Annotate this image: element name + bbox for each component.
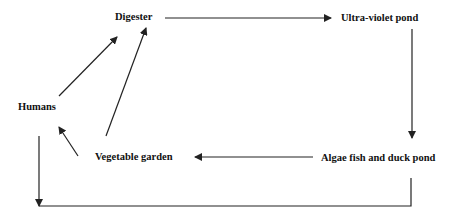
diagram-arrows xyxy=(0,0,457,218)
arrow-humans-to-digester xyxy=(59,37,117,96)
node-ultra-violet-pond: Ultra-violet pond xyxy=(341,12,418,24)
node-algae-fish-duck-pond: Algae fish and duck pond xyxy=(321,152,435,164)
arrow-vegetable-garden-to-digester xyxy=(106,28,146,136)
arrow-vegetable-garden-to-humans xyxy=(59,127,78,156)
bottom-loop-line xyxy=(39,178,411,206)
node-digester: Digester xyxy=(115,11,152,23)
node-vegetable-garden: Vegetable garden xyxy=(95,151,172,163)
node-humans: Humans xyxy=(18,101,56,113)
